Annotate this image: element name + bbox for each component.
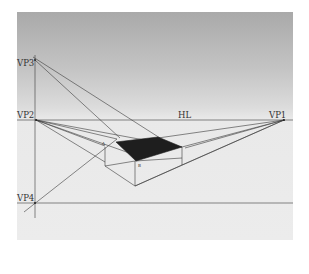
vp3-line — [35, 60, 120, 138]
vp3-point — [34, 59, 36, 61]
vp4-point — [34, 202, 36, 204]
vp2-line — [36, 120, 135, 155]
box-edge — [105, 161, 135, 166]
vp1-line — [158, 120, 284, 138]
vp3-label: VP3 — [17, 59, 34, 68]
vp2-line — [36, 120, 117, 139]
point-b-label: B — [138, 164, 141, 168]
vp1-label: VP1 — [269, 111, 286, 120]
box-top-face — [116, 137, 182, 161]
vp4-label: VP4 — [17, 194, 34, 203]
perspective-drawing — [0, 0, 309, 274]
box-edge — [135, 165, 182, 186]
vp2-label: VP2 — [17, 111, 34, 120]
vp4-line-diagonal — [24, 139, 117, 212]
horizon-label: HL — [178, 111, 191, 120]
vp2-line — [36, 120, 105, 146]
point-a-label: A — [102, 142, 105, 146]
vp2-point — [35, 119, 37, 121]
vp1-line — [185, 120, 284, 148]
box-edge — [105, 166, 135, 186]
